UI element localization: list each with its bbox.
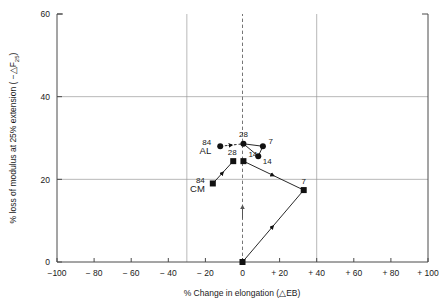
x-tick-label: − 40 <box>160 268 177 278</box>
y-tick-label: 60 <box>41 9 51 19</box>
marker-cm-84 <box>210 180 216 186</box>
point-label-al-14: 14 <box>263 157 272 166</box>
connector-arrow <box>271 174 274 175</box>
x-tick-label: + 80 <box>383 268 400 278</box>
x-tick-label: −100 <box>47 268 66 278</box>
y-tick-label: 20 <box>41 175 51 185</box>
x-tick-label: + 100 <box>417 268 439 278</box>
y-axis-title-tail: ) <box>8 52 18 55</box>
chart-container: −100− 80− 60− 40− 200+ 20+ 40+ 60+ 80+ 1… <box>0 0 445 307</box>
series-label-al: AL <box>200 145 212 156</box>
x-axis-title: % Change in elongation (△EB) <box>184 288 301 298</box>
series-labels: ALCM <box>190 145 211 194</box>
connector-cm <box>243 161 303 190</box>
series-connectors <box>213 144 304 262</box>
y-tick-label: 0 <box>45 257 50 267</box>
connector-arrow <box>271 226 273 229</box>
x-tick-label: + 20 <box>271 268 288 278</box>
y-axis-ticks: 0204060 <box>41 9 62 267</box>
y-axis-title-main: % loss of modulus at 25% extension ( −△F <box>8 62 18 223</box>
scatter-chart: −100− 80− 60− 40− 200+ 20+ 40+ 60+ 80+ 1… <box>0 0 445 307</box>
marker-cm-7 <box>301 187 307 193</box>
x-tick-label: − 20 <box>197 268 214 278</box>
point-label-cm-28: 28 <box>228 148 237 157</box>
marker-cm-14 <box>240 158 246 164</box>
x-tick-label: + 60 <box>345 268 362 278</box>
x-tick-label: + 40 <box>308 268 325 278</box>
data-markers <box>210 141 307 265</box>
data-point-labels: 84287148428147 <box>196 130 307 185</box>
y-axis-title: % loss of modulus at 25% extension ( −△F… <box>8 52 20 223</box>
y-tick-label: 40 <box>41 92 51 102</box>
x-tick-label: − 80 <box>86 268 103 278</box>
marker-al-7 <box>260 143 266 149</box>
series-label-cm: CM <box>190 183 205 194</box>
marker-cm-origin <box>240 259 246 265</box>
point-label-al-28: 28 <box>239 130 248 139</box>
marker-al-28 <box>240 141 246 147</box>
connector-arrow <box>221 172 223 175</box>
x-tick-label: − 60 <box>123 268 140 278</box>
point-label-cm-7: 7 <box>301 177 306 186</box>
x-tick-label: 0 <box>240 268 245 278</box>
marker-al-84 <box>217 143 223 149</box>
marker-cm-28 <box>230 158 236 164</box>
point-label-cm-14: 14 <box>248 150 257 159</box>
svg-text:% loss of modulus at 25% exten: % loss of modulus at 25% extension ( −△F… <box>8 52 20 223</box>
point-label-al-7: 7 <box>268 137 273 146</box>
